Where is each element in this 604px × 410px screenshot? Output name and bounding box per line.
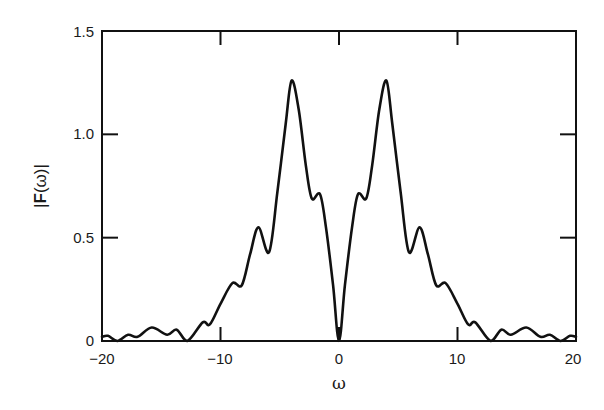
x-axis-label: ω: [332, 373, 346, 393]
x-tick-labels: −20 −10 0 10 20: [89, 350, 581, 367]
chart: −20 −10 0 10 20 0 0.5 1.0 1.5 ω |F(ω)|: [0, 0, 604, 410]
y-tick-label: 1.5: [73, 23, 94, 40]
y-tick-label: 1.0: [73, 125, 94, 142]
x-tick-label: 10: [449, 350, 466, 367]
x-tick-label: 0: [335, 350, 343, 367]
x-tick-label: 20: [565, 350, 582, 367]
x-tick-label: −20: [89, 350, 114, 367]
y-tick-label: 0: [86, 332, 94, 349]
data-line: [102, 80, 576, 341]
x-tick-label: −10: [207, 350, 232, 367]
axis-ticks: [102, 31, 576, 341]
y-tick-label: 0.5: [73, 229, 94, 246]
plot-frame: [102, 31, 576, 341]
y-tick-labels: 0 0.5 1.0 1.5: [73, 23, 94, 349]
y-axis-label: |F(ω)|: [31, 164, 50, 208]
